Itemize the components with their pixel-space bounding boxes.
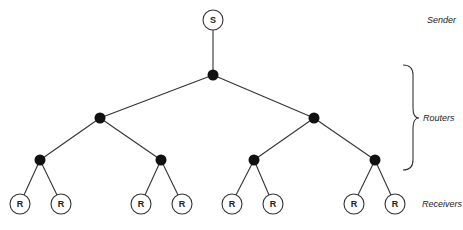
sender-legend-label: Sender — [427, 15, 457, 25]
router-node — [309, 113, 320, 124]
router-node — [249, 155, 260, 166]
receiver-label: R — [229, 199, 236, 209]
receiver-node: R — [51, 194, 71, 214]
receiver-label: R — [17, 199, 24, 209]
router-node — [95, 113, 106, 124]
router-nodes — [35, 70, 381, 166]
receiver-label: R — [58, 199, 65, 209]
receivers-legend-label: Receivers — [422, 199, 463, 209]
receiver-label: R — [270, 199, 277, 209]
tree-edges — [24, 30, 391, 195]
receiver-node: R — [344, 194, 364, 214]
receiver-node: R — [385, 194, 405, 214]
receiver-label: R — [138, 199, 145, 209]
receiver-node: R — [10, 194, 30, 214]
receiver-node: R — [131, 194, 151, 214]
receiver-label: R — [179, 199, 186, 209]
sender-node-label: S — [210, 15, 216, 25]
receiver-label: R — [351, 199, 358, 209]
receiver-nodes: R R R R R R R R — [10, 194, 405, 214]
receiver-label: R — [392, 199, 399, 209]
router-node — [35, 155, 46, 166]
router-node — [208, 70, 219, 81]
receiver-node: R — [222, 194, 242, 214]
routers-legend-label: Routers — [423, 113, 455, 123]
multicast-tree-diagram: S R R R R R — [0, 0, 463, 230]
router-node — [156, 155, 167, 166]
routers-brace-icon — [403, 65, 419, 170]
receiver-node: R — [172, 194, 192, 214]
sender-node: S — [203, 10, 223, 30]
router-node — [370, 155, 381, 166]
receiver-node: R — [263, 194, 283, 214]
